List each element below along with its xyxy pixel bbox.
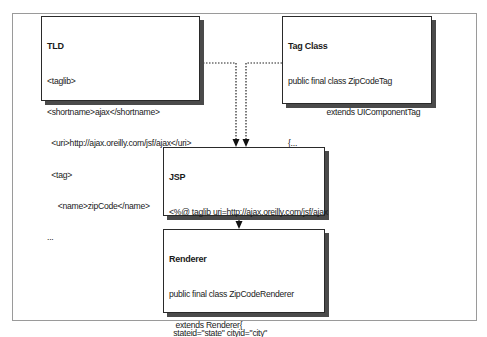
tld-title: TLD	[47, 41, 194, 51]
arrow-tld-to-jsp	[200, 63, 240, 147]
renderer-line: public final class ZipCodeRenderer	[169, 289, 319, 299]
renderer-box: Renderer public final class ZipCodeRende…	[163, 229, 325, 313]
tld-line: <taglib>	[47, 76, 194, 86]
jsp-line: <%@ taglib uri=http://ajax.oreilly.com/j…	[169, 207, 319, 217]
tag-class-line: extends UIComponentTag	[288, 107, 426, 117]
jsp-box: JSP <%@ taglib uri=http://ajax.oreilly.c…	[163, 147, 325, 216]
tag-class-box: Tag Class public final class ZipCodeTag …	[282, 16, 432, 104]
tld-line: <shortname>ajax</shortname>	[47, 107, 194, 117]
arrow-tagclass-to-jsp	[243, 63, 283, 147]
renderer-line: extends Renderer{	[169, 320, 319, 330]
tag-class-line: public final class ZipCodeTag	[288, 76, 426, 86]
renderer-title: Renderer	[169, 254, 319, 264]
tld-box: TLD <taglib> <shortname>ajax</shortname>…	[41, 16, 200, 101]
jsp-title: JSP	[169, 172, 319, 182]
tag-class-title: Tag Class	[288, 41, 426, 51]
